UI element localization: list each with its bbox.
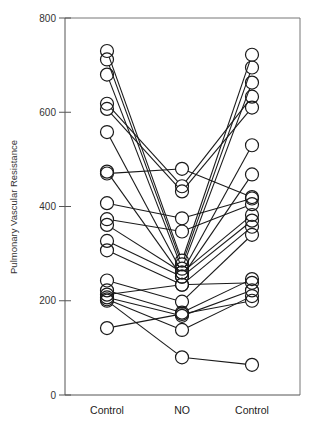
data-point-circle [176, 278, 189, 291]
data-point-circle [176, 351, 189, 364]
data-point-circle [101, 218, 114, 231]
y-axis-title: Pulmonary Vascular Resistance [8, 140, 19, 274]
subject-line-segment [113, 253, 176, 282]
data-point-circle [246, 48, 259, 61]
data-point-circle [101, 213, 114, 226]
paired-line-chart: Pulmonary Vascular Resistance 0200400600… [0, 0, 314, 423]
data-point-circle [176, 225, 189, 238]
data-point-circle [101, 322, 114, 335]
subject-line-segment [188, 358, 245, 364]
data-point-circle [176, 323, 189, 336]
data-point-circle [101, 68, 114, 81]
data-point-circle [101, 53, 114, 66]
x-category-label: Control [235, 404, 269, 416]
y-tick-label: 600 [39, 107, 56, 118]
y-tick-label: 400 [39, 201, 56, 212]
y-tick-label: 800 [39, 13, 56, 24]
data-point-circle [176, 212, 189, 225]
data-point-circle [101, 126, 114, 139]
subject-line-segment [113, 286, 175, 294]
data-point-circle [246, 358, 259, 371]
subject-line-segment [188, 283, 245, 285]
y-axis-ticks: 0200400600800 [39, 13, 71, 401]
subject-line-segment [113, 315, 175, 327]
data-point-circle [101, 244, 114, 257]
x-axis-labels: ControlNOControl [90, 404, 269, 416]
data-point-circle [176, 162, 189, 175]
data-point-circle [246, 168, 259, 181]
y-tick-label: 0 [50, 390, 56, 401]
data-point-circle [246, 76, 259, 89]
x-category-label: NO [174, 404, 190, 416]
y-tick-label: 200 [39, 295, 56, 306]
subject-line-segment [113, 302, 176, 328]
data-point-circle [246, 228, 259, 241]
subject-line-segment [113, 282, 175, 300]
subject-line-segment [188, 200, 245, 216]
data-point-circle [246, 139, 259, 152]
subject-line-segment [111, 114, 177, 187]
x-category-label: Control [90, 404, 124, 416]
subject-line-segment [113, 204, 175, 217]
data-point-circle [101, 197, 114, 210]
data-points [101, 44, 259, 371]
